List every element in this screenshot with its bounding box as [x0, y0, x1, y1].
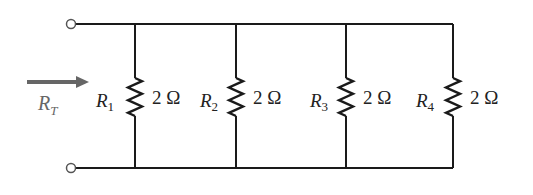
resistor-r2-name: R2: [200, 90, 218, 115]
input-arrow-icon: [26, 75, 90, 89]
resistor-r4-name: R4: [416, 90, 434, 115]
total-resistance-label: RT: [38, 92, 57, 119]
bottom-terminal: [67, 164, 76, 173]
rt-symbol: R: [38, 92, 50, 114]
resistor-r1-name: R1: [96, 90, 114, 115]
resistor-r3-icon: [339, 78, 353, 116]
resistor-r3-name: R3: [310, 90, 328, 115]
resistor-r2-value: 2 Ω: [253, 87, 281, 109]
top-terminal: [67, 20, 76, 29]
resistor-r2-icon: [229, 78, 243, 116]
resistor-r1-value: 2 Ω: [152, 87, 180, 109]
resistor-r1-icon: [128, 78, 142, 116]
rt-subscript: T: [50, 103, 57, 118]
resistor-r3-value: 2 Ω: [363, 87, 391, 109]
resistor-r4-value: 2 Ω: [470, 87, 498, 109]
resistor-r4-icon: [446, 78, 460, 116]
